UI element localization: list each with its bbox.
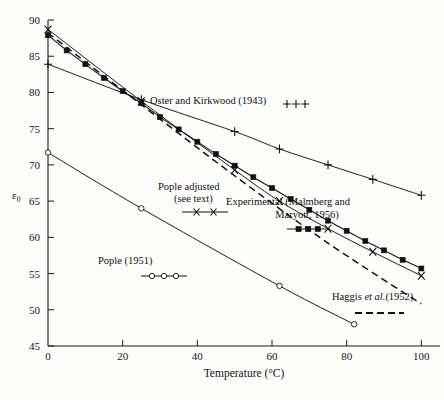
- data-point: [400, 257, 405, 262]
- y-tick-label-50: 50: [29, 304, 41, 316]
- series-line: [48, 153, 354, 325]
- y-tick-label-45: 45: [29, 340, 41, 352]
- y-axis-ticks: [48, 20, 54, 346]
- annotation-oster-kirkwood: Oster and Kirkwood (1943): [150, 95, 309, 108]
- x-tick-label-0: 0: [45, 350, 51, 362]
- x-axis-ticks: [123, 340, 422, 346]
- annotation-pople-1951: Pople (1951): [98, 255, 187, 279]
- data-point: [214, 152, 219, 157]
- y-axis-title-subscript: 0: [17, 195, 21, 204]
- data-point: [275, 145, 283, 154]
- experimental-label-line2: Maryott, 1956): [275, 209, 339, 221]
- series-oster-and-kirkwood-1943: [44, 60, 425, 200]
- x-tick-label-20: 20: [117, 350, 129, 362]
- data-point: [231, 127, 239, 136]
- data-point: [351, 322, 356, 327]
- data-point: [344, 228, 349, 233]
- data-point: [277, 283, 282, 288]
- pople-adjusted-label-line1: Pople adjusted: [158, 181, 220, 192]
- x-axis-tick-labels: 020406080100: [45, 350, 430, 362]
- data-point: [369, 248, 376, 256]
- data-point: [232, 163, 237, 168]
- series-layer: [44, 26, 425, 327]
- data-point: [46, 33, 51, 38]
- y-tick-label-90: 90: [29, 14, 41, 26]
- data-point: [363, 238, 368, 243]
- data-point: [44, 60, 52, 69]
- data-point: [270, 186, 275, 191]
- x-axis-title: Temperature (°C): [204, 367, 285, 380]
- pople-adjusted-label-line2: (see text): [174, 193, 213, 205]
- data-point: [64, 48, 69, 53]
- haggis-label-italic: et al.: [364, 291, 385, 302]
- data-point: [324, 160, 332, 169]
- data-point: [176, 127, 181, 132]
- data-point: [139, 101, 144, 106]
- y-axis-title: ε0: [12, 189, 21, 204]
- haggis-label-pre: Haggis: [332, 291, 364, 302]
- y-tick-label-70: 70: [29, 159, 41, 171]
- data-point: [158, 115, 163, 120]
- y-tick-label-80: 80: [29, 86, 41, 98]
- oster-kirkwood-label: Oster and Kirkwood (1943): [150, 95, 267, 107]
- annotation-pople-adjusted: Pople adjusted (see text): [158, 181, 228, 216]
- data-point: [382, 248, 387, 253]
- data-point: [417, 191, 425, 200]
- data-point: [418, 272, 425, 280]
- series-pople-1951: [45, 150, 357, 327]
- x-tick-label-40: 40: [192, 350, 204, 362]
- y-tick-label-55: 55: [29, 268, 41, 280]
- oster-kirkwood-key-plus-icon: [283, 100, 309, 108]
- data-point: [251, 175, 256, 180]
- pople-adjusted-key: [182, 209, 228, 216]
- data-point: [102, 75, 107, 80]
- annotation-experimental: Experimental (Malmberg and Maryott, 1956…: [226, 196, 351, 232]
- experimental-key: [287, 226, 330, 231]
- series-line: [48, 35, 421, 268]
- x-tick-label-60: 60: [267, 350, 279, 362]
- y-tick-label-85: 85: [29, 50, 41, 62]
- chart-canvas: 45505560657075808590 020406080100 ε0 Tem…: [0, 0, 444, 400]
- y-tick-label-75: 75: [29, 123, 41, 135]
- annotation-haggis: Haggis et al.(1952): [332, 291, 414, 313]
- data-point: [419, 266, 424, 271]
- data-point: [139, 206, 144, 211]
- x-tick-label-80: 80: [341, 350, 353, 362]
- series-experimental-malmberg-and-maryott-1956: [46, 33, 424, 271]
- x-tick-label-100: 100: [413, 350, 430, 362]
- data-point: [120, 88, 125, 93]
- y-axis-tick-labels: 45505560657075808590: [29, 14, 41, 352]
- haggis-label: Haggis et al.(1952): [332, 291, 414, 303]
- pople-1951-label: Pople (1951): [98, 255, 153, 267]
- data-point: [83, 62, 88, 67]
- pople-1951-key: [141, 273, 187, 278]
- data-point: [369, 175, 377, 184]
- data-point: [195, 139, 200, 144]
- dielectric-constant-chart: 45505560657075808590 020406080100 ε0 Tem…: [0, 0, 444, 400]
- haggis-label-post: (1952): [385, 291, 413, 303]
- data-point: [45, 150, 50, 155]
- y-tick-label-60: 60: [29, 231, 41, 243]
- y-tick-label-65: 65: [29, 195, 41, 207]
- experimental-label-line1: Experimental (Malmberg and: [226, 196, 351, 208]
